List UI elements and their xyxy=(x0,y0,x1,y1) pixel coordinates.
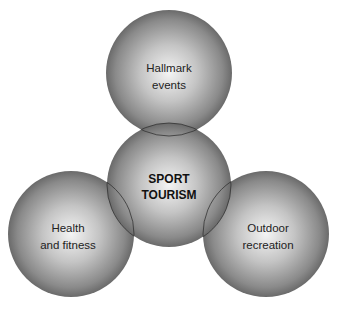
label-line: TOURISM xyxy=(141,187,196,203)
label-line: and fitness xyxy=(40,237,96,254)
label-line: SPORT xyxy=(141,171,196,187)
venn-diagram xyxy=(0,0,341,309)
label-line: Outdoor xyxy=(242,220,293,237)
label-line: Hallmark xyxy=(146,60,191,77)
label-sport-tourism: SPORT TOURISM xyxy=(141,171,196,203)
label-hallmark-events: Hallmark events xyxy=(146,60,191,94)
label-line: recreation xyxy=(242,237,293,254)
label-line: Health xyxy=(40,220,96,237)
label-outdoor-recreation: Outdoor recreation xyxy=(242,220,293,254)
label-health-fitness: Health and fitness xyxy=(40,220,96,254)
label-line: events xyxy=(146,77,191,94)
